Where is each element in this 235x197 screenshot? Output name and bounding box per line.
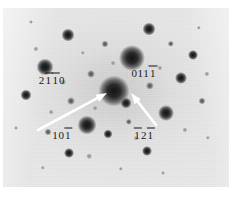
reflection-digit: 1 bbox=[65, 130, 72, 141]
reflection-label-101: 101 bbox=[52, 130, 71, 141]
reflection-digit: 1 bbox=[45, 75, 52, 86]
diffraction-spot bbox=[175, 72, 187, 84]
reflection-digit: 1 bbox=[149, 68, 156, 79]
reflection-digit: 0 bbox=[59, 74, 65, 86]
reflection-label-0111: 0111 bbox=[131, 68, 156, 79]
diffraction-spot bbox=[102, 41, 109, 48]
diffraction-spot bbox=[104, 130, 113, 139]
diffraction-spot bbox=[188, 50, 198, 60]
reflection-label-121: 121 bbox=[134, 130, 154, 141]
diffraction-plate: 21100111101121 bbox=[3, 8, 229, 187]
diffraction-spot bbox=[67, 97, 75, 105]
reflection-digit: 1 bbox=[134, 130, 141, 141]
diffraction-spot bbox=[14, 126, 18, 130]
diffraction-spot bbox=[62, 29, 75, 42]
diffraction-spot bbox=[143, 23, 156, 36]
diffraction-spot bbox=[121, 98, 132, 109]
diffraction-spot bbox=[161, 171, 165, 175]
diffraction-spot bbox=[29, 20, 33, 24]
diffraction-spot bbox=[49, 110, 54, 115]
reflection-digit: 1 bbox=[52, 75, 59, 86]
diffraction-spot bbox=[87, 70, 95, 78]
diffraction-spot bbox=[64, 148, 74, 158]
diffraction-spot bbox=[21, 90, 32, 101]
diffraction-spot bbox=[142, 146, 152, 156]
diffraction-spot bbox=[158, 105, 174, 121]
diffraction-spot bbox=[111, 61, 116, 66]
diffraction-figure: 21100111101121 bbox=[0, 0, 235, 197]
reflection-label-2110: 2110 bbox=[39, 75, 65, 86]
reflection-digit: 1 bbox=[147, 130, 154, 141]
diffraction-spot bbox=[45, 129, 52, 136]
diffraction-spot bbox=[199, 98, 206, 105]
diffraction-spot bbox=[93, 106, 98, 111]
diffraction-spot bbox=[86, 153, 92, 159]
diffraction-spot bbox=[78, 116, 97, 135]
